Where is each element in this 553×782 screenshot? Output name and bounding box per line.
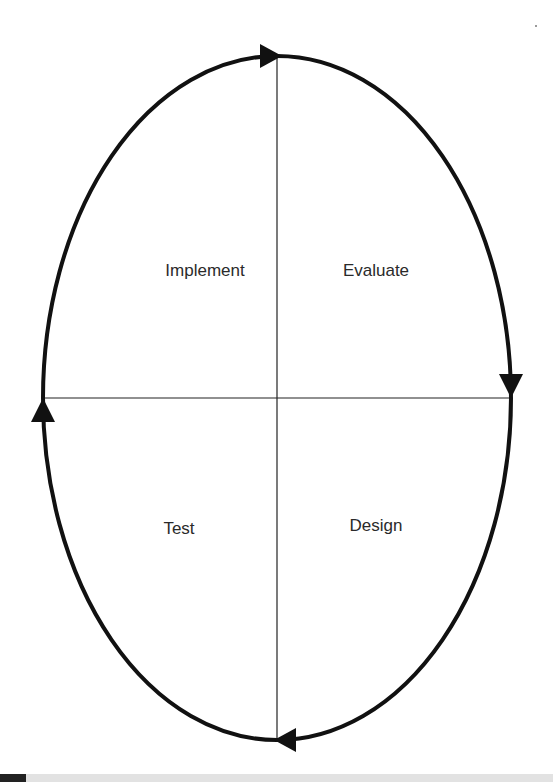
page-footer-rule [0,774,553,782]
quadrant-label-test: Test [163,519,194,539]
page-footer-marker [0,774,26,782]
arrow-right-icon [260,44,282,68]
scan-speck [535,25,537,27]
quadrant-label-design: Design [350,516,403,536]
quadrant-label-implement: Implement [165,261,244,281]
quadrant-label-evaluate: Evaluate [343,261,409,281]
arrow-down-icon [499,374,523,398]
cycle-diagram [0,0,553,782]
arrow-up-icon [31,398,55,422]
